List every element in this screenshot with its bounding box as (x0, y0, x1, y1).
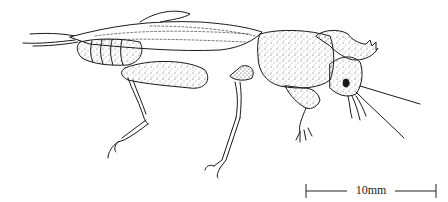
scale-bar: 10mm (305, 182, 437, 200)
scale-label: 10mm (347, 183, 395, 197)
antenna (360, 86, 420, 104)
middle-leg (205, 66, 253, 178)
eye-icon (343, 79, 349, 87)
head (330, 57, 420, 138)
insect-illustration (0, 0, 448, 202)
antenna (356, 92, 404, 138)
hind-leg (108, 61, 208, 158)
abdomen (77, 39, 142, 65)
cerci (23, 33, 78, 46)
